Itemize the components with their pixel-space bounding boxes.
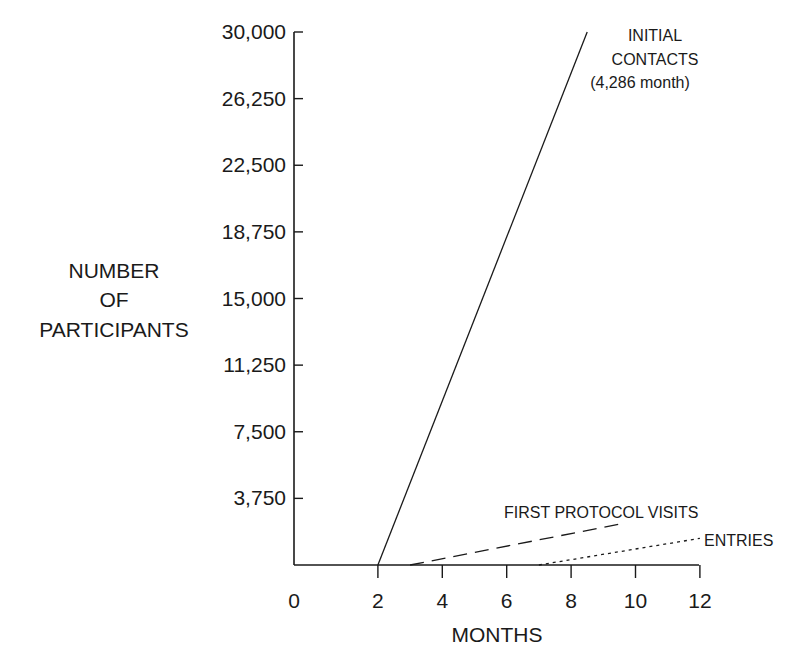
y-axis-title-line: OF bbox=[99, 288, 128, 311]
x-tick-label: 8 bbox=[565, 589, 577, 612]
x-axis-title: MONTHS bbox=[452, 623, 543, 646]
annotation-first-protocol-visits: FIRST PROTOCOL VISITS bbox=[504, 504, 698, 521]
series-lines bbox=[378, 32, 700, 565]
y-tick-label: 22,500 bbox=[222, 153, 286, 176]
y-tick-label: 26,250 bbox=[222, 87, 286, 110]
annotation-initial-contacts: INITIAL bbox=[628, 27, 682, 44]
series-line-initial-contacts bbox=[378, 32, 587, 565]
y-tick-label: 7,500 bbox=[233, 420, 286, 443]
series-line-entries bbox=[539, 538, 700, 565]
y-tick-label: 15,000 bbox=[222, 287, 286, 310]
annotation-initial-contacts: CONTACTS bbox=[612, 51, 699, 68]
series-line-first-protocol-visits bbox=[410, 524, 619, 565]
y-axis-title-line: NUMBER bbox=[68, 259, 159, 282]
x-tick-label: 6 bbox=[501, 589, 513, 612]
y-axis-title-line: PARTICIPANTS bbox=[39, 318, 188, 341]
y-tick-label: 11,250 bbox=[223, 353, 286, 376]
chart: 3,7507,50011,25015,00018,75022,50026,250… bbox=[0, 0, 806, 658]
y-tick-label: 30,000 bbox=[222, 20, 286, 43]
axes: 3,7507,50011,25015,00018,75022,50026,250… bbox=[222, 20, 712, 612]
x-tick-label: 0 bbox=[288, 589, 300, 612]
x-tick-label: 2 bbox=[372, 589, 384, 612]
x-tick-label: 10 bbox=[624, 589, 647, 612]
annotation-entries: ENTRIES bbox=[704, 532, 773, 549]
x-tick-label: 4 bbox=[436, 589, 448, 612]
y-tick-label: 3,750 bbox=[233, 486, 286, 509]
labels: MONTHSNUMBEROFPARTICIPANTSINITIALCONTACT… bbox=[39, 27, 773, 646]
annotation-initial-contacts: (4,286 month) bbox=[590, 74, 690, 91]
y-tick-label: 18,750 bbox=[222, 220, 286, 243]
x-tick-label: 12 bbox=[688, 589, 711, 612]
